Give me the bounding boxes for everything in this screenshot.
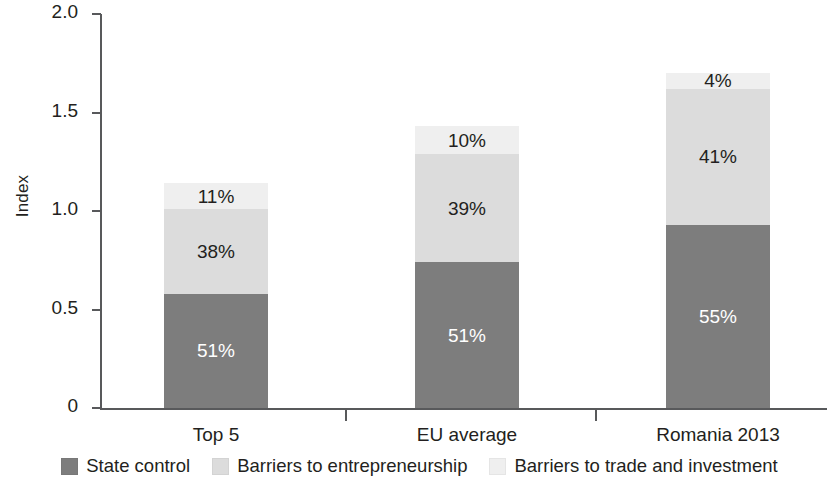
legend-item[interactable]: State control [61,455,190,477]
x-axis-tick-mark [345,410,347,421]
legend-swatch-icon [212,458,229,475]
x-axis-category-label: EU average [357,424,577,446]
legend-item[interactable]: Barriers to entrepreneurship [212,455,467,477]
x-axis-category-label: Romania 2013 [608,424,828,446]
y-axis-tick-label: 1.5 [22,100,78,122]
stacked-bar-chart: Index 2.01.51.00.50 51%38%11%51%39%10%55… [0,0,839,488]
bar-segment-value-label: 4% [704,71,731,90]
bar-segment-value-label: 39% [448,199,486,218]
bar-segment-value-label: 38% [197,242,235,261]
x-axis-line [100,408,827,410]
bar-segment: 38% [164,209,268,294]
legend-item[interactable]: Barriers to trade and investment [489,455,777,477]
y-axis-tick-mark [92,309,101,311]
legend-swatch-icon [489,458,506,475]
bar-segment: 10% [415,126,519,154]
y-axis-tick-label: 0 [22,395,78,417]
bar-stack: 51%38%11% [164,183,268,408]
bar-segment: 55% [666,225,770,408]
x-axis-category-label: Top 5 [106,424,326,446]
bar-segment-value-label: 10% [448,131,486,150]
x-axis-tick-mark [595,410,597,421]
legend-label: Barriers to entrepreneurship [237,455,467,477]
y-axis-tick-mark [92,13,101,15]
bar-segment-value-label: 51% [448,326,486,345]
chart-legend: State controlBarriers to entrepreneurshi… [0,455,839,477]
bar-segment: 4% [666,73,770,89]
bar-stack: 55%41%4% [666,73,770,408]
bar-segment-value-label: 41% [699,147,737,166]
bar-segment: 51% [415,262,519,408]
bar-segment: 51% [164,294,268,408]
bar-segment: 41% [666,89,770,225]
bar-segment-value-label: 11% [198,187,235,206]
bar-segment: 11% [164,183,268,209]
bar-segment: 39% [415,154,519,262]
y-axis-tick-label: 1.0 [22,198,78,220]
y-axis-title: Index [13,146,33,246]
legend-label: Barriers to trade and investment [514,455,777,477]
bar-segment-value-label: 51% [197,341,235,360]
legend-swatch-icon [61,458,78,475]
y-axis-tick-label: 0.5 [22,297,78,319]
legend-label: State control [86,455,190,477]
bar-segment-value-label: 55% [699,307,737,326]
y-axis-tick-mark [92,210,101,212]
y-axis-tick-label: 2.0 [22,1,78,23]
y-axis-tick-mark [92,112,101,114]
bar-stack: 51%39%10% [415,126,519,408]
